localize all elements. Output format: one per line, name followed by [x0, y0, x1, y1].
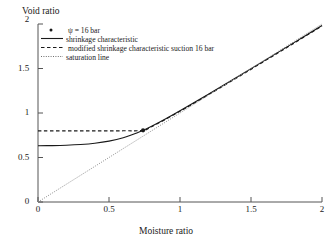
- chart-figure: Void ratio Moisture ratio 0 0.5 1 1.5 2 …: [0, 0, 336, 244]
- x-tick-label-2: 2: [315, 204, 329, 214]
- legend-swatch-marker: [50, 29, 53, 32]
- y-axis-ticks: [38, 24, 43, 202]
- legend-label-saturation: saturation line: [66, 53, 109, 62]
- y-tick-label-0_5: 0.5: [13, 152, 34, 162]
- x-axis-title: Moisture ratio: [139, 226, 193, 236]
- legend-swatches: [41, 29, 63, 57]
- x-axis-ticks: [38, 197, 322, 202]
- legend-label-modified: modified shrinkage characteristic suctio…: [68, 44, 214, 53]
- x-tick-label-0_5: 0.5: [99, 204, 120, 214]
- x-tick-label-1_5: 1.5: [241, 204, 262, 214]
- y-tick-label-1: 1: [20, 107, 34, 117]
- legend-label-shrinkage: shrinkage characteristic: [66, 35, 138, 44]
- data-point-0: [141, 128, 145, 132]
- x-tick-label-0: 0: [31, 204, 45, 214]
- chart-plot-area: [0, 0, 336, 244]
- chart-data-points: [141, 128, 145, 132]
- y-tick-label-2: 2: [20, 14, 34, 24]
- y-tick-label-1_5: 1.5: [13, 63, 34, 73]
- legend-label-suction: ψ = 16 bar: [68, 26, 100, 35]
- x-tick-label-1: 1: [173, 204, 187, 214]
